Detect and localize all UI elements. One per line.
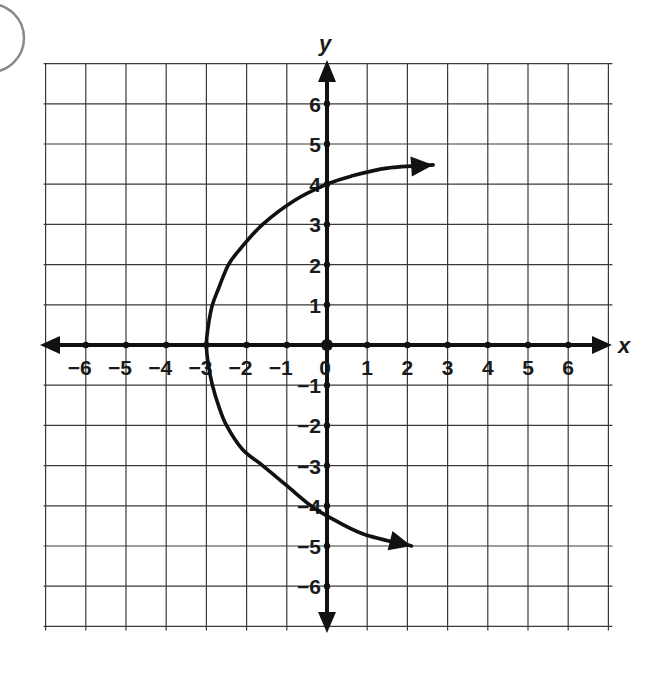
y-tick-label: −2 — [297, 414, 321, 437]
y-tick-dot — [324, 543, 330, 549]
x-tick-label: 1 — [361, 356, 373, 379]
y-tick-dot — [324, 503, 330, 509]
x-tick-dot — [83, 342, 89, 348]
x-tick-label: 3 — [442, 356, 454, 379]
y-tick-label: 6 — [309, 93, 321, 116]
y-tick-label: −1 — [297, 374, 321, 397]
x-tick-dot — [243, 342, 249, 348]
axes: xy — [40, 31, 631, 633]
y-tick-dot — [324, 583, 330, 589]
x-tick-dot — [284, 342, 290, 348]
x-tick-dot — [525, 342, 531, 348]
y-tick-dot — [324, 382, 330, 388]
x-tick-dot — [404, 342, 410, 348]
x-tick-label: 2 — [402, 356, 414, 379]
curve-upper-arrow-icon — [410, 156, 433, 176]
y-tick-dot — [324, 462, 330, 468]
x-tick-label: −1 — [269, 356, 293, 379]
y-tick-dot — [324, 101, 330, 107]
x-tick-label: −4 — [148, 356, 172, 379]
y-tick-label: −3 — [297, 455, 321, 478]
y-tick-dot — [324, 302, 330, 308]
x-tick-dot — [565, 342, 571, 348]
y-axis-label: y — [318, 31, 333, 56]
y-tick-label: −6 — [297, 575, 321, 598]
x-tick-label: 5 — [522, 356, 534, 379]
y-tick-label: 1 — [309, 294, 321, 317]
x-axis-label: x — [617, 333, 631, 358]
y-tick-label: 5 — [309, 133, 321, 156]
x-tick-label: −6 — [68, 356, 92, 379]
origin-label: 0 — [319, 356, 331, 379]
x-tick-dot — [364, 342, 370, 348]
x-tick-label: 4 — [482, 356, 494, 379]
coordinate-plane: xy −6−5−4−3−2−1123456−6−5−4−3−2−11234560 — [0, 0, 660, 684]
origin-dot — [321, 339, 333, 351]
x-axis-left-arrow-icon — [40, 336, 60, 354]
y-tick-dot — [324, 221, 330, 227]
x-tick-dot — [123, 342, 129, 348]
x-tick-label: 6 — [562, 356, 574, 379]
y-axis-down-arrow-icon — [318, 612, 336, 633]
question-bubble — [0, 4, 24, 72]
y-tick-label: 2 — [309, 254, 321, 277]
y-tick-label: −5 — [297, 535, 321, 558]
y-tick-label: 3 — [309, 213, 321, 236]
x-tick-dot — [163, 342, 169, 348]
x-tick-dot — [485, 342, 491, 348]
y-tick-dot — [324, 422, 330, 428]
x-tick-dot — [444, 342, 450, 348]
x-tick-label: −5 — [108, 356, 132, 379]
y-tick-dot — [324, 261, 330, 267]
y-tick-dot — [324, 141, 330, 147]
x-tick-label: −2 — [229, 356, 253, 379]
